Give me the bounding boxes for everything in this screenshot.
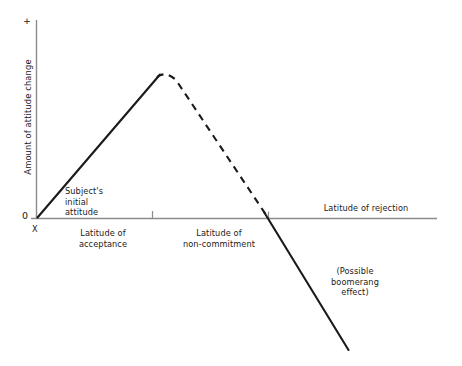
y-axis-plus-tick-label: + <box>23 16 31 27</box>
y-axis-zero-tick-label: 0 <box>22 211 28 222</box>
region-label-rejection: Latitude of rejection <box>305 203 427 214</box>
annotation-subject-initial-attitude: Subject's initial attitude <box>65 186 135 218</box>
plot-canvas <box>0 0 462 366</box>
x-axis-origin-label: X <box>32 224 38 235</box>
curve-dashed-descending <box>157 74 269 218</box>
region-label-acceptance: Latitude of acceptance <box>48 228 158 249</box>
attitude-change-figure: Amount of attitude change + 0 X Latitude… <box>0 0 462 366</box>
annotation-possible-boomerang-effect: (Possible boomerang effect) <box>318 266 392 298</box>
y-axis-label: Amount of attitude change <box>23 37 33 197</box>
region-label-non-commitment: Latitude of non-commitment <box>163 228 275 249</box>
